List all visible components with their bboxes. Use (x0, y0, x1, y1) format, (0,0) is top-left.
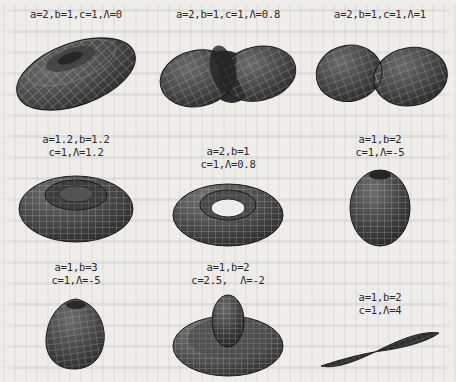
peanut-mesh (158, 28, 298, 120)
panel-figure-peanut (152, 21, 304, 128)
panel-figure-dimpled-torus (0, 158, 152, 255)
dimpled-torus-mesh (11, 167, 141, 247)
caption-line-2: c=1,Λ=-5 (356, 146, 405, 158)
panel-figure-ellipsoid (0, 21, 152, 128)
panel-prolate-sphere: a=1,b=2c=1,Λ=-5 (304, 127, 456, 255)
caption-line-1: a=1,b=3 (55, 261, 98, 273)
panel-caption: a=1,b=2c=1,Λ=4 (359, 291, 402, 316)
caption-line-1: a=1,b=2 (359, 133, 402, 145)
panel-caption: a=2,b=1c=1,Λ=0.8 (200, 145, 255, 170)
panel-caption: a=2,b=1,c=1,Λ=0.8 (176, 8, 280, 21)
panel-bowtie-spindle: a=1,b=2c=1,Λ=4 (304, 255, 456, 382)
panel-caption: a=1,b=2c=1,Λ=-5 (356, 133, 405, 158)
panel-figure-torus (152, 170, 304, 255)
panel-figure-prolate-sphere (304, 158, 456, 255)
panel-peanut-bilobe: a=2,b=1,c=1,Λ=0.8 (152, 0, 304, 127)
panel-two-lobes: a=2,b=1,c=1,Λ=1 (304, 0, 456, 127)
prolate-sphere-mesh (335, 166, 425, 248)
panel-teardrop-blob: a=1,b=3c=1,Λ=-5 (0, 255, 152, 382)
panel-figure-disc-bulb (152, 286, 304, 382)
caption-line-2: c=1,Λ=-5 (52, 274, 101, 286)
ellipsoid-mesh (6, 28, 146, 120)
bowtie-spindle-mesh (315, 324, 445, 374)
caption-line-2: c=1,Λ=4 (359, 304, 402, 316)
panel-caption: a=1,b=2c=2.5, Λ=-2 (191, 261, 264, 286)
caption-line-2: c=2.5, Λ=-2 (191, 274, 264, 286)
panel-ellipsoid: a=2,b=1,c=1,Λ=0 (0, 0, 152, 127)
panel-torus: a=2,b=1c=1,Λ=0.8 (152, 127, 304, 255)
panel-figure-bowtie (304, 316, 456, 382)
panel-figure-two-lobes (304, 21, 456, 128)
panel-caption: a=2,b=1,c=1,Λ=0 (30, 8, 122, 21)
caption-line-1: a=2,b=1 (207, 145, 250, 157)
caption-line-2: c=1,Λ=0.8 (200, 158, 255, 170)
panel-dimpled-torus: a=1.2,b=1.2c=1,Λ=1.2 (0, 127, 152, 255)
caption-line-1: a=1,b=2 (207, 261, 250, 273)
teardrop-mesh (26, 293, 126, 375)
panel-disc-with-bulb: a=1,b=2c=2.5, Λ=-2 (152, 255, 304, 382)
panel-figure-teardrop (0, 286, 152, 382)
disc-bulb-mesh (163, 288, 293, 380)
figure-page: a=2,b=1,c=1,Λ=0 (0, 0, 456, 382)
caption-line-1: a=1.2,b=1.2 (42, 133, 109, 145)
panel-caption: a=1.2,b=1.2c=1,Λ=1.2 (42, 133, 109, 158)
caption-line-1: a=1,b=2 (359, 291, 402, 303)
two-lobes-mesh (310, 28, 450, 120)
caption-line-2: c=1,Λ=1.2 (48, 146, 103, 158)
panel-caption: a=2,b=1,c=1,Λ=1 (334, 8, 426, 21)
torus-mesh (166, 177, 291, 249)
surface-plot-grid: a=2,b=1,c=1,Λ=0 (0, 0, 456, 382)
panel-caption: a=1,b=3c=1,Λ=-5 (52, 261, 101, 286)
